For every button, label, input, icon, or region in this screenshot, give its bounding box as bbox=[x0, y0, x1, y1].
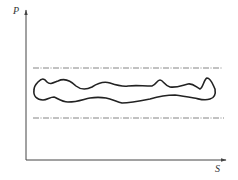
y-axis-label: P bbox=[13, 5, 19, 16]
closed-wavy-curve bbox=[34, 78, 215, 103]
diagram-canvas bbox=[0, 0, 238, 180]
x-axis-label: S bbox=[215, 163, 220, 174]
